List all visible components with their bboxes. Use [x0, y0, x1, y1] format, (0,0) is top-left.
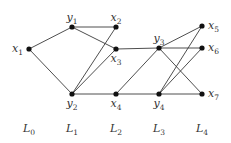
- node-y4: [156, 91, 161, 96]
- layered-graph-diagram: x1y1y2x2x3x4y3y4x5x6x7 L0L1L2L3L4: [0, 0, 231, 143]
- node-y2: [69, 91, 74, 96]
- node-x6: [199, 45, 204, 50]
- node-x7: [199, 91, 204, 96]
- edge-x1-y2: [29, 49, 72, 94]
- edge-x4-y3: [116, 48, 159, 94]
- level-label-L1: L1: [65, 122, 78, 137]
- node-x4: [113, 91, 118, 96]
- level-labels: L0L1L2L3L4: [22, 122, 208, 137]
- edge-y1-x3: [72, 27, 116, 49]
- node-label-y3: y3: [153, 32, 165, 47]
- node-label-x1: x1: [12, 42, 23, 57]
- level-label-L3: L3: [152, 122, 165, 137]
- node-x5: [199, 23, 204, 28]
- level-label-L2: L2: [109, 122, 122, 137]
- node-label-x6: x6: [208, 41, 219, 56]
- edge-y2-x3: [72, 49, 116, 94]
- node-label-x2: x2: [111, 11, 122, 26]
- edge-x1-y1: [29, 27, 72, 49]
- edge-y4-x5: [159, 26, 202, 94]
- level-label-L4: L4: [195, 122, 208, 137]
- node-x3: [113, 46, 118, 51]
- node-label-x3: x3: [111, 52, 122, 67]
- node-x1: [26, 46, 31, 51]
- edge-x3-y3: [116, 48, 159, 49]
- node-label-x4: x4: [111, 97, 122, 112]
- level-label-L0: L0: [22, 122, 35, 137]
- edge-y2-x2: [72, 27, 116, 94]
- node-label-y4: y4: [153, 97, 165, 112]
- node-label-y2: y2: [66, 97, 78, 112]
- node-label-y1: y1: [66, 11, 78, 26]
- node-label-x5: x5: [208, 19, 219, 34]
- node-label-x7: x7: [208, 87, 219, 102]
